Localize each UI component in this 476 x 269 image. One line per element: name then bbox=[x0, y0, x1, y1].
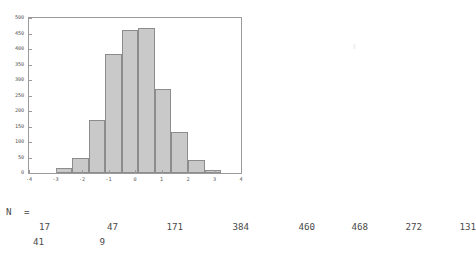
x-axis-tick-mark bbox=[56, 170, 57, 173]
x-axis-tick-mark bbox=[241, 170, 242, 173]
count-value: 41 bbox=[4, 234, 44, 249]
bars-group bbox=[29, 18, 241, 173]
y-axis-tick-label: 450 bbox=[4, 31, 24, 36]
x-axis-tick-mark bbox=[135, 170, 136, 173]
count-value: 272 bbox=[382, 219, 422, 234]
x-axis-tick-label: 2 bbox=[181, 177, 195, 182]
y-axis-tick-mark bbox=[29, 18, 32, 19]
histogram-bar bbox=[188, 160, 205, 173]
x-axis-tick-label: -1 bbox=[102, 177, 116, 182]
y-axis-tick-label: 200 bbox=[4, 108, 24, 113]
y-axis-tick-label: 100 bbox=[4, 139, 24, 144]
y-axis-tick-label: 350 bbox=[4, 62, 24, 67]
histogram-bar bbox=[89, 120, 106, 173]
counts-row-2: 419 bbox=[0, 234, 399, 249]
y-axis-tick-mark bbox=[29, 49, 32, 50]
x-axis-tick-mark bbox=[109, 170, 110, 173]
count-value: 17 bbox=[10, 219, 50, 234]
x-axis-tick-mark bbox=[215, 170, 216, 173]
x-axis-tick-label: -2 bbox=[75, 177, 89, 182]
histogram-bar bbox=[155, 89, 172, 173]
x-axis-tick-label: 1 bbox=[155, 177, 169, 182]
y-axis-tick-label: 500 bbox=[4, 15, 24, 20]
x-axis-tick-label: -3 bbox=[49, 177, 63, 182]
histogram-bar bbox=[205, 170, 222, 173]
y-axis-tick-mark bbox=[29, 96, 32, 97]
counts-label: N = bbox=[6, 204, 30, 219]
x-axis-tick-label: 4 bbox=[234, 177, 248, 182]
histogram-bar bbox=[105, 54, 122, 173]
y-axis-tick-label: 50 bbox=[4, 155, 24, 160]
y-axis-tick-mark bbox=[29, 142, 32, 143]
y-axis-tick-label: 250 bbox=[4, 93, 24, 98]
histogram-bar bbox=[72, 158, 89, 173]
counts-row-1: 1747171384460468272131 bbox=[0, 219, 399, 234]
y-axis-tick-label: 0 bbox=[4, 170, 24, 175]
histogram-bar bbox=[56, 168, 73, 173]
y-axis-tick-mark bbox=[29, 80, 32, 81]
count-value: 468 bbox=[328, 219, 368, 234]
counts-panel: N = 1747171384460468272131 419 bbox=[0, 204, 399, 264]
histogram-bar bbox=[171, 132, 188, 173]
x-axis-tick-label: -4 bbox=[22, 177, 36, 182]
x-axis-tick-label: 3 bbox=[208, 177, 222, 182]
histogram-bar bbox=[138, 28, 155, 173]
x-axis-tick-mark bbox=[162, 170, 163, 173]
count-value: 47 bbox=[78, 219, 118, 234]
count-value: 460 bbox=[275, 219, 315, 234]
count-value: 384 bbox=[209, 219, 249, 234]
x-axis-tick-label: 0 bbox=[128, 177, 142, 182]
y-axis-tick-mark bbox=[29, 111, 32, 112]
x-axis-tick-mark bbox=[188, 170, 189, 173]
y-axis-tick-mark bbox=[29, 173, 32, 174]
y-axis-tick-mark bbox=[29, 158, 32, 159]
histogram-bar bbox=[122, 30, 139, 173]
y-axis-tick-mark bbox=[29, 127, 32, 128]
count-value: 9 bbox=[65, 234, 105, 249]
histogram-chart: 050100150200250300350400450500 -4-3-2-10… bbox=[0, 0, 260, 198]
y-axis-tick-label: 150 bbox=[4, 124, 24, 129]
y-axis-tick-label: 400 bbox=[4, 46, 24, 51]
x-axis-tick-mark bbox=[82, 170, 83, 173]
y-axis-tick-mark bbox=[29, 65, 32, 66]
count-value: 131 bbox=[436, 219, 476, 234]
page-artifact bbox=[353, 44, 356, 49]
y-axis-tick-mark bbox=[29, 34, 32, 35]
plot-frame bbox=[28, 17, 242, 174]
count-value: 171 bbox=[143, 219, 183, 234]
x-axis-tick-mark bbox=[29, 170, 30, 173]
y-axis-tick-label: 300 bbox=[4, 77, 24, 82]
